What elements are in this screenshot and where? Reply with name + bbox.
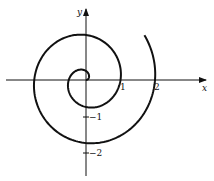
x-axis-label: x <box>202 83 207 93</box>
spiral-curve <box>34 35 155 144</box>
tick-label-x2: 2 <box>154 82 160 92</box>
tick-label-y-1: −1 <box>89 112 102 122</box>
spiral-chart: 1 2 −1 −2 x y <box>0 0 214 181</box>
y-axis-label: y <box>76 7 83 17</box>
tick-label-x1: 1 <box>120 82 126 92</box>
tick-label-y-2: −2 <box>89 148 102 158</box>
